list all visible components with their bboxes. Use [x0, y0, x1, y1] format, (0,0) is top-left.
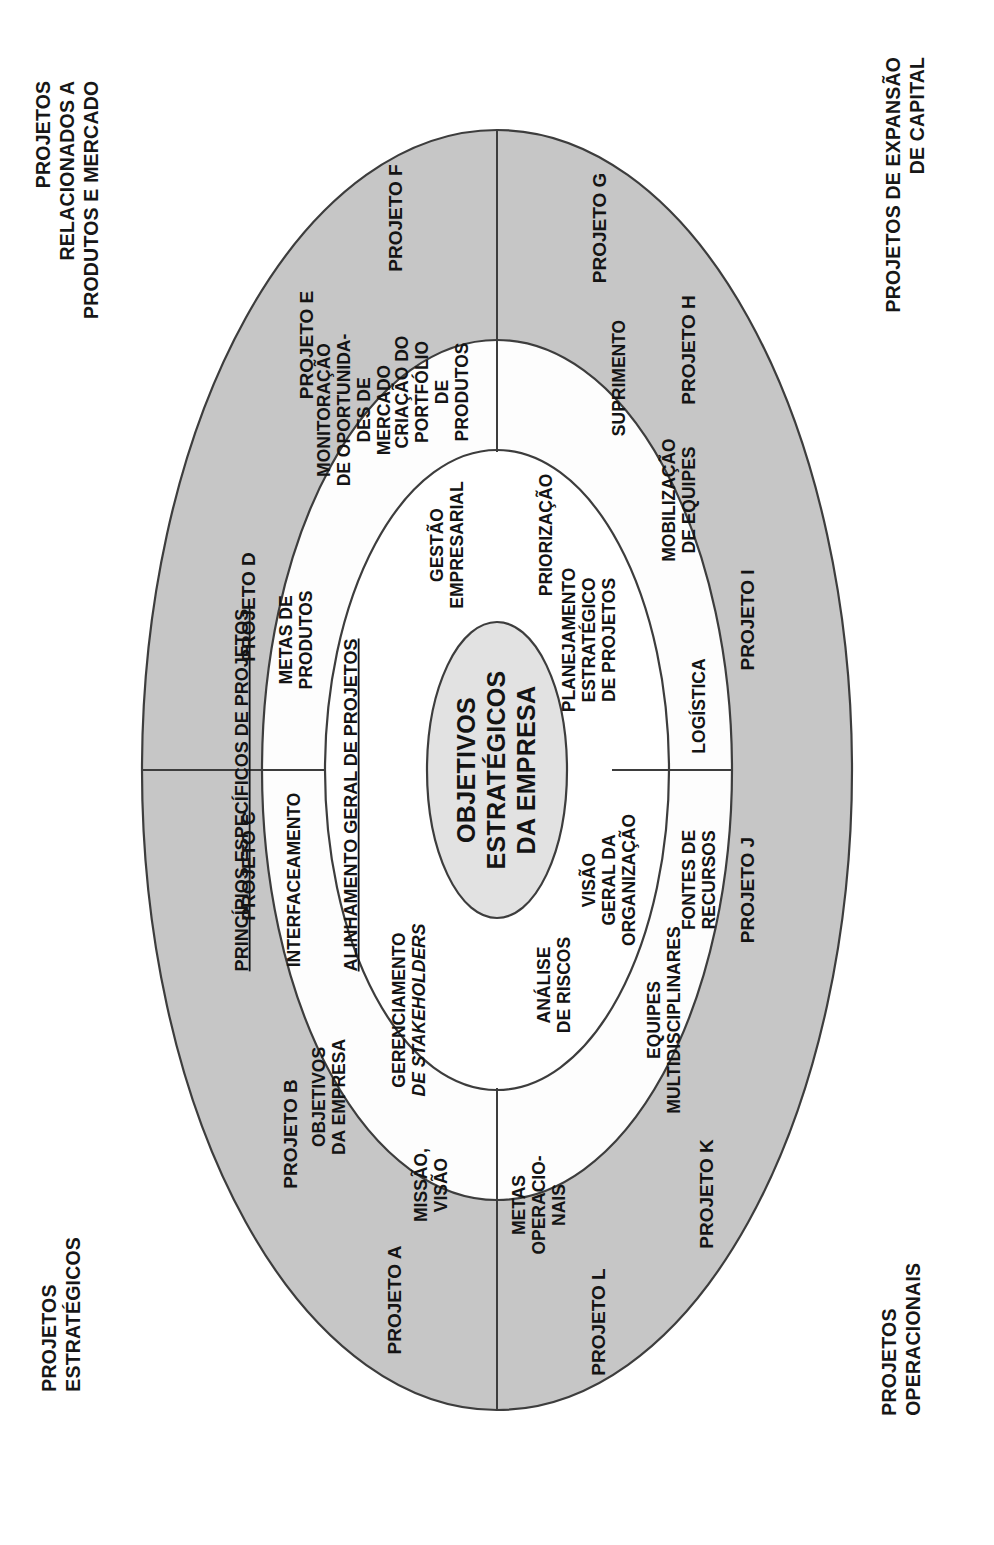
inner-label-gerenciamento-stakeholders: GERENCIAMENTO DE STAKEHOLDERS	[389, 923, 429, 1096]
band-heading-principios: PRINCÍPIOS ESPECÍFICOS DE PROJETOS	[231, 609, 252, 972]
svg-text:ORGANIZAÇÃO: ORGANIZAÇÃO	[618, 814, 639, 946]
outer-label-projeto-a: PROJETO A	[384, 1245, 405, 1354]
svg-text:PRODUTOS: PRODUTOS	[452, 343, 472, 442]
outer-label-projeto-l: PROJETO L	[588, 1268, 609, 1376]
svg-text:MONITORAÇÃO: MONITORAÇÃO	[313, 343, 334, 477]
svg-text:MULTIDISCIPLINARES: MULTIDISCIPLINARES	[664, 926, 684, 1113]
svg-text:DE: DE	[432, 380, 452, 404]
svg-text:DA EMPRESA: DA EMPRESA	[512, 686, 540, 855]
outer-label-projeto-f: PROJETO F	[385, 164, 406, 271]
middle-label-missao-visao: MISSÃO, VISÃO	[410, 1148, 451, 1222]
svg-text:ESTRATÉGICO: ESTRATÉGICO	[578, 577, 599, 702]
svg-text:GERAL DA: GERAL DA	[599, 834, 619, 925]
svg-text:GESTÃO: GESTÃO	[426, 508, 447, 582]
svg-text:ESTRATÉGICOS: ESTRATÉGICOS	[482, 671, 510, 870]
svg-text:PRIORIZAÇÃO: PRIORIZAÇÃO	[535, 474, 556, 597]
svg-text:PORTFÓLIO: PORTFÓLIO	[411, 341, 432, 443]
svg-text:CRIAÇÃO DO: CRIAÇÃO DO	[391, 336, 412, 449]
outer-label-projeto-k: PROJETO K	[696, 1139, 717, 1249]
svg-text:FONTES DE: FONTES DE	[679, 830, 699, 930]
svg-text:METAS DE: METAS DE	[276, 595, 296, 684]
inner-label-priorizacao: PRIORIZAÇÃO	[535, 474, 556, 597]
svg-text:EQUIPES: EQUIPES	[644, 981, 664, 1059]
svg-text:OBJETIVOS: OBJETIVOS	[309, 1047, 329, 1147]
core-label: OBJETIVOS ESTRATÉGICOS DA EMPRESA	[452, 671, 540, 870]
outer-label-projeto-i: PROJETO I	[737, 569, 758, 670]
svg-text:MISSÃO,: MISSÃO,	[410, 1148, 431, 1222]
svg-text:DE PROJETOS: DE PROJETOS	[599, 578, 619, 702]
svg-text:DE EQUIPES: DE EQUIPES	[679, 447, 699, 554]
middle-label-metas-de-produtos: METAS DE PRODUTOS	[276, 591, 316, 690]
svg-text:GERENCIAMENTO: GERENCIAMENTO	[389, 932, 409, 1087]
middle-label-criacao-portfolio-produtos: CRIAÇÃO DO PORTFÓLIO DE PRODUTOS	[391, 336, 472, 449]
middle-label-objetivos-da-empresa: OBJETIVOS DA EMPRESA	[309, 1039, 349, 1155]
svg-text:DE RISCOS: DE RISCOS	[554, 937, 574, 1033]
outer-label-projeto-g: PROJETO G	[589, 173, 610, 284]
svg-text:OBJETIVOS: OBJETIVOS	[452, 697, 480, 843]
svg-text:EMPRESARIAL: EMPRESARIAL	[447, 481, 467, 609]
middle-label-logistica: LOGÍSTICA	[688, 658, 709, 754]
svg-text:NAIS: NAIS	[549, 1184, 569, 1226]
middle-label-suprimento: SUPRIMENTO	[609, 320, 629, 436]
band-heading-alinhamento: ALINHAMENTO GERAL DE PROJETOS	[341, 638, 361, 971]
svg-text:METAS: METAS	[509, 1175, 529, 1235]
svg-text:PRODUTOS: PRODUTOS	[296, 591, 316, 690]
inner-label-analise-de-riscos: ANÁLISE DE RISCOS	[533, 937, 574, 1033]
svg-text:MERCADO: MERCADO	[374, 365, 394, 455]
svg-text:LOGÍSTICA: LOGÍSTICA	[688, 658, 709, 754]
svg-text:DES DE: DES DE	[354, 377, 374, 442]
svg-text:MOBILIZAÇÃO: MOBILIZAÇÃO	[658, 438, 679, 561]
svg-text:ANÁLISE: ANÁLISE	[533, 947, 554, 1024]
svg-text:VISÃO: VISÃO	[578, 853, 599, 907]
outer-label-projeto-j: PROJETO J	[737, 837, 758, 943]
svg-text:DA EMPRESA: DA EMPRESA	[329, 1039, 349, 1155]
onion-diagram: PROJETO F PROJETO G PROJETO E PROJETO H …	[0, 0, 994, 1545]
svg-text:SUPRIMENTO: SUPRIMENTO	[609, 320, 629, 436]
middle-label-interfaceamento: INTERFACEAMENTO	[284, 793, 304, 968]
inner-label-planejamento-estrategico: PLANEJAMENTO ESTRATÉGICO DE PROJETOS	[559, 568, 619, 713]
svg-text:INTERFACEAMENTO: INTERFACEAMENTO	[284, 793, 304, 968]
svg-text:OPERACIO-: OPERACIO-	[529, 1155, 549, 1254]
svg-text:PLANEJAMENTO: PLANEJAMENTO	[559, 568, 579, 713]
outer-label-projeto-b: PROJETO B	[280, 1079, 301, 1188]
middle-label-mobilizacao-de-equipes: MOBILIZAÇÃO DE EQUIPES	[658, 438, 699, 561]
svg-text:DE OPORTUNIDA-: DE OPORTUNIDA-	[334, 334, 354, 487]
svg-text:DE STAKEHOLDERS: DE STAKEHOLDERS	[409, 923, 429, 1096]
svg-text:VISÃO: VISÃO	[430, 1158, 451, 1212]
outer-label-projeto-h: PROJETO H	[678, 295, 699, 404]
middle-label-fontes-de-recursos: FONTES DE RECURSOS	[679, 830, 719, 930]
svg-text:RECURSOS: RECURSOS	[699, 830, 719, 929]
